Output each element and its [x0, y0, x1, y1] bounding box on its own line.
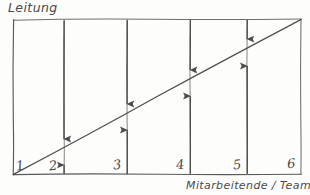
diagram-canvas: Leitung Mitarbeitende / Team 1 2 3 4 5 6 [0, 0, 310, 195]
frame-top-line [14, 19, 302, 20]
axis-left-line [13, 20, 14, 175]
x-tick-label-4: 4 [175, 157, 185, 173]
x-tick-label-2: 2 [48, 158, 58, 174]
frame-right-line [301, 19, 302, 174]
y-axis-label: Leitung [8, 2, 58, 15]
x-tick-label-6: 6 [286, 156, 296, 172]
x-tick-label-1: 1 [15, 158, 25, 174]
x-axis-label: Mitarbeitende / Team [186, 180, 310, 191]
x-tick-label-3: 3 [112, 157, 122, 173]
axis-bottom-line [13, 174, 301, 175]
diagram-sketch [0, 0, 310, 195]
diagonal-trend-line [13, 19, 301, 174]
x-tick-label-5: 5 [232, 157, 242, 173]
